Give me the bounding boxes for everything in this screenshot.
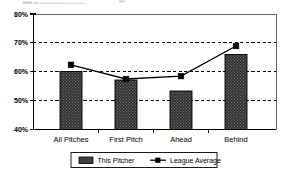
y-tick-label-50: 50%	[14, 97, 29, 104]
bar-behind	[225, 55, 247, 130]
legend-label-this-pitcher: This Pitcher	[98, 157, 136, 164]
league-average-marker-behind	[233, 43, 239, 49]
category-label-first-pitch: First Pitch	[109, 135, 142, 144]
chart-container: 80% 70% 60% 50% 40% Al	[0, 0, 287, 172]
league-average-marker-all-pitches	[68, 62, 74, 68]
league-average-marker-first-pitch	[123, 76, 129, 82]
category-label-ahead: Ahead	[170, 135, 192, 144]
bar-first-pitch	[115, 80, 137, 130]
category-label-all-pitches: All Pitches	[53, 135, 88, 144]
y-tick-label-40: 40%	[14, 126, 29, 133]
category-label-behind: Behind	[224, 135, 247, 144]
legend-swatch-this-pitcher	[79, 157, 93, 164]
y-tick-label-60: 60%	[14, 68, 29, 75]
bar-line-combo-chart: 80% 70% 60% 50% 40% Al	[0, 0, 287, 172]
bar-ahead	[170, 91, 192, 130]
bar-all-pitches	[60, 72, 82, 130]
league-average-marker-ahead	[178, 73, 184, 79]
y-tick-label-80: 80%	[14, 11, 29, 18]
legend-label-league-average: League Average	[170, 157, 221, 165]
chart-legend: This Pitcher League Average	[71, 153, 221, 168]
y-tick-label-70: 70%	[14, 39, 29, 46]
legend-marker-league-average	[155, 158, 160, 163]
